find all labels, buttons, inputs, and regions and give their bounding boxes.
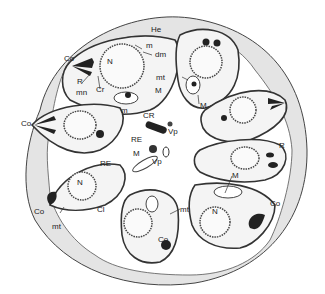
label-M-lowerright: M — [232, 172, 239, 180]
cell-bottom-center — [121, 190, 178, 263]
label-M-center: M — [133, 150, 140, 158]
label-mt-bottomleft: mt — [52, 223, 61, 231]
label-N-lowerleft: N — [77, 179, 83, 187]
label-Co-topleft: Co — [64, 55, 74, 63]
label-m-mid: m — [121, 107, 128, 115]
label-He: He — [151, 26, 161, 34]
label-Vp-upper: Vp — [168, 128, 178, 136]
label-M-topright: M — [200, 102, 207, 110]
label-mn: mn — [76, 89, 87, 97]
label-R-topleft: R — [77, 78, 83, 86]
label-Co-bottomleft: Co — [34, 208, 44, 216]
label-CR: CR — [143, 112, 155, 120]
label-Vp-lower: Vp — [152, 158, 162, 166]
label-RE-center: RE — [131, 136, 142, 144]
label-N-bottomright: N — [212, 208, 218, 216]
label-N-topleft: N — [107, 58, 113, 66]
label-Co-bottom: Co — [158, 236, 168, 244]
label-Cl: Cl — [97, 206, 105, 214]
label-mt-bottom: mt — [180, 206, 189, 214]
label-R-right: R — [279, 142, 285, 150]
label-RE-lowerleft: RE — [100, 160, 111, 168]
label-mt-top: mt — [156, 74, 165, 82]
cyst-cross-section-diagram — [0, 0, 325, 294]
label-Co-left: Co — [21, 120, 31, 128]
label-Co-right: Co — [270, 200, 280, 208]
label-m-top: m — [146, 42, 153, 50]
label-dm: dm — [155, 51, 166, 59]
cell-right-middle — [194, 140, 286, 182]
label-M-topleft: M — [155, 87, 162, 95]
label-Cr: Cr — [96, 86, 104, 94]
